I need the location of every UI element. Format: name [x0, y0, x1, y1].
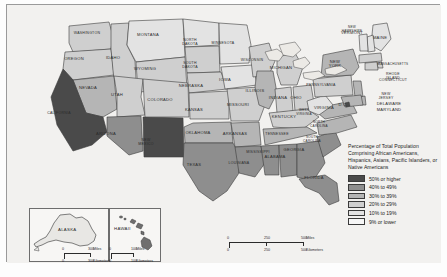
- state-label-new-york: NEWYORK: [329, 59, 342, 68]
- legend-label: 10% to 19%: [369, 210, 396, 216]
- state-indiana: [275, 87, 293, 113]
- state-vermont: [359, 34, 368, 51]
- state-label-utah: UTAH: [111, 92, 123, 97]
- legend-label: 30% to 39%: [369, 193, 396, 199]
- map-frame: WASHINGTONOREGONIDAHOMONTANAWYOMINGNEVAD…: [6, 4, 440, 262]
- scale-tick: [133, 253, 134, 257]
- state-label-kentucky: KENTUCKY: [272, 114, 296, 119]
- state-montana: [127, 19, 185, 62]
- state-label-california: CALIFORNIA: [47, 111, 71, 115]
- legend-swatch: [348, 175, 365, 182]
- state-label-nevada: NEVADA: [79, 85, 97, 90]
- state-label-nebraska: NEBRASKA: [179, 83, 203, 88]
- state-kansas: [189, 91, 229, 119]
- legend-label: 9% or lower: [369, 219, 396, 225]
- legend-row: 20% to 29%: [348, 200, 442, 209]
- legend-label: 40% to 49%: [369, 184, 396, 190]
- scale-unit-miles: Miles: [306, 236, 314, 240]
- state-label-wyoming: WYOMING: [134, 66, 156, 71]
- state-label-tennessee: TENNESSEE: [265, 132, 289, 136]
- scale-unit-kilometers: Kilometers: [93, 259, 110, 263]
- scale-tick: [303, 242, 304, 246]
- state-connecticut: [365, 62, 378, 70]
- legend-row: 30% to 39%: [348, 192, 442, 201]
- legend-swatch: [348, 218, 365, 225]
- state-label-michigan: MICHIGAN: [270, 65, 292, 70]
- scale-tick-label-miles: 0: [227, 236, 229, 240]
- legend-row: 9% or lower: [348, 217, 442, 226]
- map-figure: WASHINGTONOREGONIDAHOMONTANAWYOMINGNEVAD…: [0, 0, 447, 277]
- state-label-south-dakota: SOUTHDAKOTA: [182, 61, 198, 69]
- scale-unit-miles: Miles: [93, 247, 101, 251]
- state-label-massachusetts: MASSACHUSETTS: [378, 62, 409, 66]
- state-label-missouri: MISSOURI: [227, 102, 249, 107]
- state-label-connecticut: CONNECTICUT: [379, 78, 408, 82]
- state-label-maryland: MARYLAND: [377, 107, 402, 112]
- state-label-alabama: ALABAMA: [264, 154, 285, 159]
- scale-tick-label-kilometers: 250: [264, 248, 270, 252]
- scale-tick: [229, 242, 230, 246]
- scale-tick-label-kilometers: 0: [109, 259, 111, 263]
- state-washington: [69, 22, 113, 52]
- state-label-ohio: OHIO: [290, 95, 301, 100]
- state-label-texas: TEXAS: [187, 162, 202, 167]
- state-label-oregon: OREGON: [64, 56, 84, 61]
- state-label-washington: WASHINGTON: [74, 31, 101, 35]
- state-label-arizona: ARIZONA: [96, 131, 116, 136]
- scale-tick: [266, 242, 267, 246]
- state-oregon: [63, 49, 114, 80]
- state-label-kansas: KANSAS: [185, 107, 203, 112]
- state-label-louisiana: LOUISIANA: [229, 161, 250, 165]
- state-label-d-c-: D.C.: [338, 102, 347, 107]
- scale-tick-label-kilometers: 0: [227, 248, 229, 252]
- state-label-idaho: IDAHO: [106, 55, 120, 60]
- scale-tick-label-kilometers: 0: [62, 259, 64, 263]
- legend-swatch: [348, 193, 365, 200]
- scale-tick-label-miles: 250: [264, 236, 270, 240]
- state-label-pennsylvania: PENNSYLVANIA: [306, 83, 336, 87]
- legend-row: 10% to 19%: [348, 209, 442, 218]
- state-label-vermont: VERMONT: [341, 30, 363, 35]
- state-label-maine: MAINE: [373, 35, 387, 40]
- state-label-illinois: ILLINOIS: [246, 88, 265, 93]
- scale-unit-miles: Miles: [136, 247, 144, 251]
- state-label-iowa: IOWA: [219, 77, 231, 82]
- state-label-indiana: INDIANA: [269, 95, 287, 100]
- state-label-florida: FLORIDA: [304, 175, 324, 180]
- scale-tick: [90, 253, 91, 257]
- state-label-oklahoma: OKLAHOMA: [185, 130, 210, 135]
- legend-label: 50% or higher: [369, 176, 401, 182]
- state-label-montana: MONTANA: [137, 32, 159, 37]
- scale-tick: [64, 253, 65, 257]
- state-label-north-dakota: NORTHDAKOTA: [182, 38, 198, 46]
- state-label-colorado: COLORADO: [147, 97, 172, 102]
- scale-tick: [111, 253, 112, 257]
- scale-axis-miles: [111, 253, 133, 254]
- state-label-minnesota: MINNESOTA: [212, 41, 235, 45]
- scale-tick-label-miles: 0: [62, 247, 64, 251]
- legend-items: 50% or higher40% to 49%30% to 39%20% to …: [348, 174, 442, 226]
- state-label-virginia: VIRGINIA: [314, 105, 334, 110]
- legend-title: Percentage of Total Population Comprisin…: [348, 143, 440, 171]
- legend-label: 20% to 29%: [369, 201, 396, 207]
- main-scale-bar: 00250250500500MilesKilometers: [229, 235, 339, 259]
- state-label-delaware: DELAWARE: [377, 101, 402, 106]
- scale-tick-label-miles: 0: [109, 247, 111, 251]
- legend-swatch: [348, 210, 365, 217]
- scale-axis-miles: [64, 253, 90, 254]
- scale-unit-kilometers: Kilometers: [306, 248, 323, 252]
- state-label-arkansas: ARKANSAS: [223, 131, 247, 136]
- hawaii-scale-bar: 00100100MilesKilometers: [111, 246, 157, 266]
- scale-unit-kilometers: Kilometers: [136, 259, 153, 263]
- state-new-jersey: [353, 81, 363, 97]
- map-legend: Percentage of Total Population Comprisin…: [348, 143, 442, 226]
- legend-row: 50% or higher: [348, 174, 442, 183]
- legend-swatch: [348, 201, 365, 208]
- state-new-mexico: [143, 117, 184, 157]
- alaska-label: ALASKA: [58, 227, 77, 232]
- hawaii-label: HAWAII: [114, 226, 131, 231]
- legend-row: 40% to 49%: [348, 183, 442, 192]
- state-label-wisconsin: WISCONSIN: [241, 58, 264, 62]
- legend-swatch: [348, 184, 365, 191]
- state-label-georgia: GEORGIA: [284, 147, 305, 152]
